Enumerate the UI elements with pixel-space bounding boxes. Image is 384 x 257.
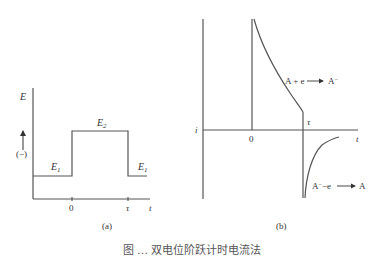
panel-b-label: (b) bbox=[276, 221, 287, 231]
a-y-label: E bbox=[19, 91, 26, 102]
panel-b-current-response: i 0 τ t A + e A− A−−e A (b) bbox=[195, 19, 366, 231]
a-x-label: t bbox=[149, 203, 152, 213]
a-e1-left: E1 bbox=[50, 161, 61, 174]
a-tick-0-label: 0 bbox=[69, 203, 74, 213]
a-e1-right: E1 bbox=[137, 161, 148, 174]
b-cathodic-curve bbox=[254, 19, 303, 112]
panel-a-label: (a) bbox=[102, 221, 112, 231]
b-tick-tau-label: τ bbox=[307, 117, 311, 127]
b-y-label: i bbox=[195, 125, 198, 135]
b-reduction-product: A− bbox=[328, 76, 339, 86]
b-x-label: t bbox=[356, 134, 359, 144]
b-reduction-label: A + e bbox=[285, 76, 305, 86]
b-oxidation-label: A−−e bbox=[312, 181, 331, 191]
b-oxidation-product: A bbox=[359, 181, 366, 191]
panel-a-potential-waveform: E (−) E1 E2 E1 0 τ t (a) bbox=[16, 88, 152, 231]
figure-caption: 图 … 双电位阶跃计时电流法 bbox=[0, 241, 384, 257]
a-minus-label: (−) bbox=[16, 149, 27, 159]
a-tick-tau-label: τ bbox=[126, 203, 130, 213]
a-e2: E2 bbox=[96, 117, 107, 130]
b-tick-0-label: 0 bbox=[249, 134, 254, 144]
